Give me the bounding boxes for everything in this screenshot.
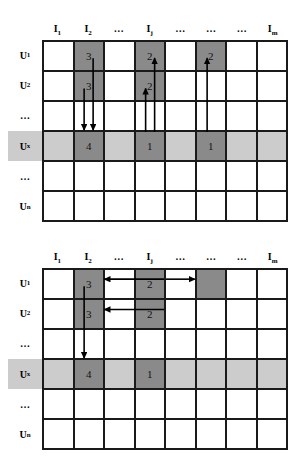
matrix-cell-r4-c2: 4: [75, 360, 106, 388]
matrix-cell-r5-c5: [166, 162, 197, 190]
column-header-7: …: [227, 248, 258, 266]
matrix-cell-r4-c3: [105, 360, 136, 388]
row-label-column-top: U1 U2 … Ux … Un: [8, 40, 42, 222]
matrix-cell-r4-c6: 1: [197, 132, 228, 160]
column-header-6: …: [196, 248, 227, 266]
matrix-cell-r6-c5: [166, 192, 197, 220]
column-header-2: I2: [73, 248, 104, 266]
matrix-cell-r1-c7: [227, 42, 258, 70]
matrix-cell-r2-c7: [227, 300, 258, 328]
row-label-ellipsis-2: …: [8, 389, 42, 419]
column-header-8: Im: [257, 248, 288, 266]
matrix-cell-r6-c4: [136, 192, 167, 220]
matrix-cell-r2-c2: 3: [75, 300, 106, 328]
matrix-cell-r4-c5: [166, 360, 197, 388]
matrix-cell-r1-c5: [166, 42, 197, 70]
matrix-cell-r1-c4: 2: [136, 270, 167, 298]
matrix-cell-r6-c1: [44, 420, 75, 448]
matrix-cell-r6-c7: [227, 420, 258, 448]
matrix-cell-r6-c7: [227, 192, 258, 220]
row-label-u2: U2: [8, 70, 42, 100]
matrix-cell-r1-c1: [44, 42, 75, 70]
column-header-4: Ij: [134, 248, 165, 266]
matrix-cell-r1-c8: [258, 270, 287, 298]
matrix-cell-r3-c1: [44, 330, 75, 358]
cell-value: 1: [147, 368, 153, 380]
matrix-cell-r6-c8: [258, 420, 287, 448]
matrix-cell-r4-c6: [197, 360, 228, 388]
matrix-cell-r1-c5: [166, 270, 197, 298]
diagram-item-based: I1 I2 … Ij … … … Im U1 U2 … Ux … Un 3232…: [0, 228, 301, 456]
matrix-cell-r4-c2: 4: [75, 132, 106, 160]
matrix-cell-r2-c8: [258, 300, 287, 328]
matrix-cell-r1-c3: [105, 42, 136, 70]
matrix-cell-r1-c8: [258, 42, 287, 70]
matrix-cell-r3-c7: [227, 330, 258, 358]
matrix-cell-r5-c4: [136, 390, 167, 418]
matrix-cell-r3-c5: [166, 102, 197, 130]
column-header-5: …: [165, 248, 196, 266]
row-label-u1: U1: [8, 268, 42, 298]
rating-matrix-grid-top: 32232411: [42, 40, 288, 222]
matrix-cell-r4-c7: [227, 132, 258, 160]
matrix-cell-r3-c3: [105, 102, 136, 130]
matrix-cell-r1-c3: [105, 270, 136, 298]
matrix-cell-r6-c5: [166, 420, 197, 448]
matrix-cell-r2-c5: [166, 72, 197, 100]
row-label-ux: Ux: [8, 359, 42, 389]
matrix-cell-r4-c7: [227, 360, 258, 388]
matrix-cell-r6-c3: [105, 420, 136, 448]
matrix-cell-r5-c6: [197, 390, 228, 418]
matrix-cell-r1-c4: 2: [136, 42, 167, 70]
matrix-cell-r3-c2: [75, 330, 106, 358]
matrix-cell-r6-c4: [136, 420, 167, 448]
column-header-3: …: [104, 248, 135, 266]
matrix-cell-r2-c3: [105, 300, 136, 328]
matrix-cell-r4-c5: [166, 132, 197, 160]
matrix-cell-r2-c8: [258, 72, 287, 100]
row-label-ux: Ux: [8, 131, 42, 161]
matrix-cell-r2-c1: [44, 300, 75, 328]
matrix-cell-r5-c1: [44, 162, 75, 190]
matrix-cell-r4-c4: 1: [136, 360, 167, 388]
table-row: 32: [44, 72, 286, 102]
column-header-1: I1: [42, 20, 73, 38]
column-header-7: …: [227, 20, 258, 38]
matrix-cell-r2-c4: 2: [136, 72, 167, 100]
table-row: [44, 390, 286, 420]
matrix-cell-r3-c8: [258, 102, 287, 130]
table-row: 32: [44, 270, 286, 300]
matrix-cell-r5-c1: [44, 390, 75, 418]
diagram-user-based: I1 I2 … Ij … … … Im U1 U2 … Ux … Un 3223…: [0, 0, 301, 228]
table-row: 411: [44, 132, 286, 162]
matrix-cell-r3-c7: [227, 102, 258, 130]
table-row: 322: [44, 42, 286, 72]
matrix-cell-r5-c8: [258, 390, 287, 418]
column-header-6: …: [196, 20, 227, 38]
matrix-cell-r3-c3: [105, 330, 136, 358]
matrix-cell-r1-c1: [44, 270, 75, 298]
row-label-un: Un: [8, 420, 42, 450]
cell-value: 2: [147, 80, 153, 92]
matrix-cell-r6-c3: [105, 192, 136, 220]
matrix-cell-r5-c2: [75, 162, 106, 190]
matrix-cell-r3-c4: [136, 330, 167, 358]
matrix-cell-r1-c2: 3: [75, 270, 106, 298]
matrix-cell-r6-c1: [44, 192, 75, 220]
table-row: [44, 420, 286, 448]
matrix-cell-r1-c7: [227, 270, 258, 298]
cell-value: 2: [147, 278, 153, 290]
matrix-cell-r3-c6: [197, 102, 228, 130]
matrix-cell-r5-c3: [105, 162, 136, 190]
matrix-cell-r5-c2: [75, 390, 106, 418]
matrix-cell-r5-c4: [136, 162, 167, 190]
row-label-ellipsis-1: …: [8, 101, 42, 131]
row-label-ellipsis-2: …: [8, 161, 42, 191]
table-row: [44, 192, 286, 220]
matrix-cell-r6-c2: [75, 420, 106, 448]
row-label-column-bottom: U1 U2 … Ux … Un: [8, 268, 42, 450]
column-header-2: I2: [73, 20, 104, 38]
cell-value: 1: [147, 140, 153, 152]
column-header-8: Im: [257, 20, 288, 38]
matrix-cell-r3-c8: [258, 330, 287, 358]
